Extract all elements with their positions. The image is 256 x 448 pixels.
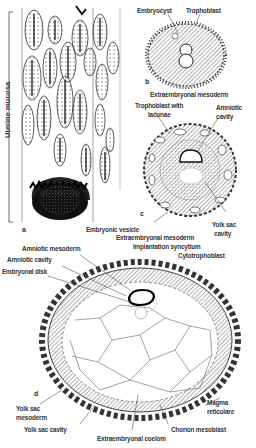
label-yolk-sac-mesoderm-2: mesoderm xyxy=(16,414,47,422)
panel-letter-d: d xyxy=(34,390,38,397)
label-extraembryonal-coelom: Extraembryonal coelom xyxy=(97,435,166,443)
label-amniotic-cavity-c-1: Amniotic xyxy=(216,104,242,112)
panel-letter-b: b xyxy=(145,78,149,85)
label-trophoblast-with-lacunae-1: Trophoblast with xyxy=(135,102,183,110)
panel-b-embryocyst xyxy=(146,14,226,88)
panel-a-uterine-mucosa xyxy=(9,6,120,222)
label-extraembryonal-mesoderm-b: Extraembryonal mesoderm xyxy=(150,91,228,99)
label-embryocyst: Embryocyst xyxy=(137,7,172,15)
label-uterine-mucosa: Uterine mucosa xyxy=(3,82,12,138)
label-magma-reticulare-2: reticulare xyxy=(207,408,234,416)
embryonic-vesicle xyxy=(30,177,90,220)
label-extraembryonal-mesoderm-c: Extraembryonal mesoderm xyxy=(116,234,194,242)
label-embryonal-disk: Embryonal disk xyxy=(2,268,47,276)
label-amniotic-cavity-d: Amniotic cavity xyxy=(7,256,52,264)
label-implantation-syncytium: Implantation syncytium xyxy=(133,243,200,251)
label-trophoblast-with-lacunae-2: lacunae xyxy=(148,111,171,119)
label-magma-reticulare-1: Magma xyxy=(207,399,228,407)
label-yolk-sac-cavity-c-2: cavity xyxy=(214,230,231,238)
panel-c-lacunae xyxy=(144,112,236,222)
label-amniotic-cavity-c-2: cavity xyxy=(216,113,233,121)
label-amniotic-mesoderm: Amniotic mesoderm xyxy=(22,245,80,253)
label-chorion-mesoblast: Chorion mesoblast xyxy=(171,426,226,434)
label-cytotrophoblast: Cytotrophoblast xyxy=(178,252,225,260)
label-yolk-sac-cavity-d: Yolk sac cavity xyxy=(24,426,67,434)
label-yolk-sac-mesoderm-1: Yolk sac xyxy=(16,405,40,413)
panel-letter-a: a xyxy=(22,226,26,233)
label-trophoblast: Trophoblast xyxy=(186,7,221,15)
panel-letter-c: c xyxy=(140,210,144,217)
label-yolk-sac-cavity-c-1: Yolk sac xyxy=(212,221,236,229)
